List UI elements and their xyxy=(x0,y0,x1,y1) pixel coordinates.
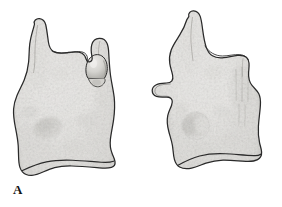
specimen-right-shading xyxy=(145,0,282,200)
figure-label-a: A xyxy=(13,183,23,196)
specimen-right-view xyxy=(145,0,282,200)
specimen-left-view xyxy=(0,0,140,200)
figure-plate: A xyxy=(0,0,282,207)
specimen-illustration xyxy=(0,0,282,207)
